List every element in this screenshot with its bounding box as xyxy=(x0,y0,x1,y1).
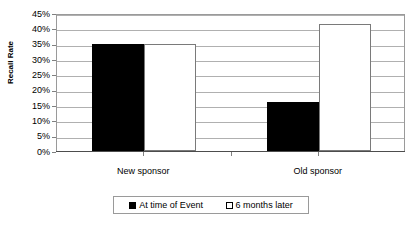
legend-label: 6 months later xyxy=(236,200,293,210)
y-axis-tick-label: 45% xyxy=(16,10,50,19)
legend-swatch-icon xyxy=(226,202,233,209)
y-axis-tick-label: 10% xyxy=(16,117,50,126)
legend-entry: At time of Event xyxy=(129,200,203,210)
y-axis-tick-mark xyxy=(52,29,56,30)
y-axis-tick-mark xyxy=(52,137,56,138)
bar-new-sponsor-series-0 xyxy=(92,44,144,151)
y-axis-tick-mark xyxy=(52,106,56,107)
legend: At time of Event6 months later xyxy=(113,196,309,214)
y-axis-tick-label: 5% xyxy=(16,132,50,141)
y-axis-tick-mark xyxy=(52,45,56,46)
bar-old-sponsor-series-1 xyxy=(319,24,371,151)
y-axis-tick-label: 25% xyxy=(16,71,50,80)
legend-swatch-icon xyxy=(129,202,136,209)
y-axis-tick-mark xyxy=(52,121,56,122)
x-axis-category-label: New sponsor xyxy=(83,166,203,176)
y-axis-tick-mark xyxy=(52,75,56,76)
legend-entry: 6 months later xyxy=(226,200,293,210)
x-axis-tick-mark xyxy=(143,152,144,156)
y-axis-tick-mark xyxy=(52,152,56,153)
plot-area xyxy=(56,14,405,152)
bar-old-sponsor-series-0 xyxy=(267,102,319,151)
y-axis-tick-labels: 45%40%35%30%25%20%15%10%5%0% xyxy=(16,14,50,152)
bar-chart: Recall Rate 45%40%35%30%25%20%15%10%5%0%… xyxy=(0,0,419,226)
y-axis-tick-mark xyxy=(52,60,56,61)
y-axis-tick-label: 15% xyxy=(16,102,50,111)
bar-new-sponsor-series-1 xyxy=(144,44,196,151)
legend-label: At time of Event xyxy=(139,200,203,210)
bars-layer xyxy=(57,15,404,151)
y-axis-title: Recall Rate xyxy=(6,23,15,103)
y-axis-tick-label: 30% xyxy=(16,56,50,65)
y-axis-tick-label: 35% xyxy=(16,40,50,49)
y-axis-tick-label: 40% xyxy=(16,25,50,34)
x-axis-category-label: Old sponsor xyxy=(258,166,378,176)
x-axis-tick-mark xyxy=(231,152,232,156)
y-axis-tick-label: 20% xyxy=(16,86,50,95)
y-axis-tick-label: 0% xyxy=(16,148,50,157)
x-axis-tick-mark xyxy=(318,152,319,156)
y-axis-tick-mark xyxy=(52,91,56,92)
y-axis-tick-mark xyxy=(52,14,56,15)
